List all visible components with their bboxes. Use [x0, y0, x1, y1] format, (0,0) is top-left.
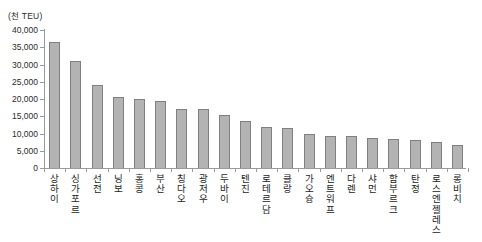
x-axis-tick: [108, 168, 109, 172]
bar[interactable]: [431, 142, 442, 168]
bar-slot: [214, 30, 235, 168]
y-axis-tick-label: 5,000: [17, 146, 38, 156]
x-axis-label-slot: 선전: [86, 174, 107, 242]
bar[interactable]: [325, 136, 336, 168]
x-axis-tick: [256, 168, 257, 172]
x-axis-label-slot: 두바이: [214, 174, 235, 242]
y-axis-tick-label: 0: [33, 163, 38, 173]
x-axis-category-label: 함부르크: [388, 174, 399, 242]
x-axis-labels: 상하이싱가포르선전닝보홍콩부산칭다오광저우두바이텐진로테르담클랑가오슝엔트워프다…: [44, 174, 468, 242]
x-axis-category-label: 엔트워프: [325, 174, 336, 242]
x-axis-category-label: 홍콩: [134, 174, 145, 242]
x-axis-label-slot: 다렌: [341, 174, 362, 242]
x-axis-tick: [362, 168, 363, 172]
bar[interactable]: [70, 61, 81, 168]
bar[interactable]: [219, 115, 230, 168]
x-axis-tick: [447, 168, 448, 172]
bar[interactable]: [410, 140, 421, 168]
bar-slot: [256, 30, 277, 168]
x-axis-label-slot: 상하이: [44, 174, 65, 242]
x-axis-tick: [277, 168, 278, 172]
x-axis-category-label: 닝보: [113, 174, 124, 242]
x-axis-tick: [86, 168, 87, 172]
x-axis-category-label: 가오슝: [304, 174, 315, 242]
y-axis-tick-label: 20,000: [12, 94, 38, 104]
x-axis-tick: [426, 168, 427, 172]
bar[interactable]: [92, 85, 103, 168]
x-axis-category-label: 텐진: [240, 174, 251, 242]
x-axis-label-slot: 로테르담: [256, 174, 277, 242]
bar-slot: [150, 30, 171, 168]
x-axis-category-label: 광저우: [198, 174, 209, 242]
x-axis-tick: [341, 168, 342, 172]
bar-slot: [404, 30, 425, 168]
x-axis-tick: [468, 168, 469, 172]
bar-slot: [320, 30, 341, 168]
bar-slot: [298, 30, 319, 168]
x-axis-label-slot: 샤먼: [362, 174, 383, 242]
bar[interactable]: [176, 109, 187, 168]
y-axis-tick-label: 15,000: [12, 111, 38, 121]
bar-slot: [426, 30, 447, 168]
bar-slot: [235, 30, 256, 168]
x-axis-label-slot: 싱가포르: [65, 174, 86, 242]
bar-chart: (천 TEU) 40,00035,00030,00025,00020,00015…: [0, 0, 482, 242]
bar[interactable]: [346, 136, 357, 168]
x-axis-label-slot: 탄정: [404, 174, 425, 242]
x-axis-tick: [65, 168, 66, 172]
bar-slot: [341, 30, 362, 168]
bar-slot: [129, 30, 150, 168]
bar[interactable]: [198, 109, 209, 168]
x-axis-label-slot: 롱비치: [447, 174, 468, 242]
bar[interactable]: [304, 134, 315, 168]
bar-slot: [362, 30, 383, 168]
bar-series: [44, 30, 468, 168]
x-axis-label-slot: 광저우: [192, 174, 213, 242]
x-axis-category-label: 두바이: [219, 174, 230, 242]
bar[interactable]: [282, 128, 293, 168]
bar[interactable]: [240, 121, 251, 168]
x-axis-tick: [150, 168, 151, 172]
x-axis-category-label: 클랑: [282, 174, 293, 242]
x-axis-category-label: 롱비치: [452, 174, 463, 242]
bar[interactable]: [388, 139, 399, 168]
x-axis-category-label: 부산: [155, 174, 166, 242]
y-axis-tick-label: 40,000: [12, 25, 38, 35]
bar[interactable]: [49, 42, 60, 168]
bar-slot: [86, 30, 107, 168]
y-axis-tick-label: 10,000: [12, 129, 38, 139]
bar[interactable]: [155, 101, 166, 168]
x-axis-label-slot: 가오슝: [298, 174, 319, 242]
y-axis-tick-label: 25,000: [12, 77, 38, 87]
x-axis-label-slot: 클랑: [277, 174, 298, 242]
bar-slot: [277, 30, 298, 168]
bar-slot: [171, 30, 192, 168]
x-axis-tick: [320, 168, 321, 172]
x-axis-tick: [44, 168, 45, 172]
x-axis-tick: [129, 168, 130, 172]
bar[interactable]: [452, 145, 463, 168]
x-axis-tick: [171, 168, 172, 172]
bar[interactable]: [134, 99, 145, 168]
y-axis-unit-label: (천 TEU): [8, 9, 42, 21]
bar-slot: [44, 30, 65, 168]
x-axis-label-slot: 로스엔젤레스: [426, 174, 447, 242]
x-axis-category-label: 선전: [92, 174, 103, 242]
bar[interactable]: [113, 97, 124, 168]
x-axis-label-slot: 엔트워프: [320, 174, 341, 242]
bar[interactable]: [367, 138, 378, 168]
x-axis-category-label: 싱가포르: [70, 174, 81, 242]
y-axis-tick-label: 35,000: [12, 42, 38, 52]
x-axis-label-slot: 함부르크: [383, 174, 404, 242]
x-axis-label-slot: 닝보: [108, 174, 129, 242]
x-axis-category-label: 로테르담: [261, 174, 272, 242]
x-axis-category-label: 칭다오: [176, 174, 187, 242]
bar-slot: [383, 30, 404, 168]
x-axis-category-label: 탄정: [410, 174, 421, 242]
y-axis-tick-label: 30,000: [12, 60, 38, 70]
bar[interactable]: [261, 127, 272, 168]
x-axis-label-slot: 홍콩: [129, 174, 150, 242]
x-axis-tick: [404, 168, 405, 172]
x-axis-tick: [235, 168, 236, 172]
bar-slot: [65, 30, 86, 168]
